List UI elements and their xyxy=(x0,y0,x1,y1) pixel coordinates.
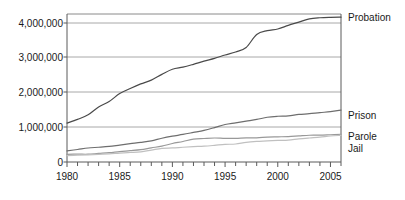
line-chart: 4,000,000 3,000,000 2,000,000 1,000,000 … xyxy=(0,0,405,200)
x-axis-label-1990: 1990 xyxy=(161,171,184,182)
y-axis-labels: 4,000,000 3,000,000 2,000,000 1,000,000 … xyxy=(19,18,64,168)
legend-item-prison: Prison xyxy=(348,110,376,121)
x-axis-label-2005: 2005 xyxy=(319,171,342,182)
x-axis-label-1995: 1995 xyxy=(214,171,237,182)
legend: Probation Prison Parole Jail xyxy=(348,12,391,154)
x-axis-labels: 1980 1985 1990 1995 2000 2005 xyxy=(56,171,342,182)
x-axis-label-1985: 1985 xyxy=(109,171,132,182)
y-axis-ticks xyxy=(64,23,68,162)
y-axis-label-0: 0 xyxy=(57,157,63,168)
x-axis-label-2000: 2000 xyxy=(267,171,290,182)
y-axis-label-4000000: 4,000,000 xyxy=(19,18,64,29)
x-axis-ticks xyxy=(67,162,341,167)
legend-item-probation: Probation xyxy=(348,12,391,23)
legend-item-parole: Parole xyxy=(348,131,377,142)
y-axis-label-3000000: 3,000,000 xyxy=(19,52,64,63)
y-axis-label-1000000: 1,000,000 xyxy=(19,122,64,133)
plot-area-background xyxy=(67,14,341,162)
legend-item-jail: Jail xyxy=(348,143,363,154)
chart-svg: 4,000,000 3,000,000 2,000,000 1,000,000 … xyxy=(0,0,405,200)
y-axis-label-2000000: 2,000,000 xyxy=(19,87,64,98)
x-axis-label-1980: 1980 xyxy=(56,171,79,182)
